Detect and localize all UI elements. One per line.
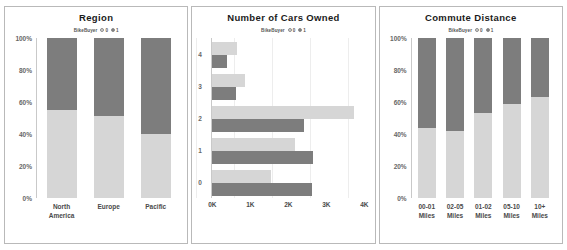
bar-group: 0 bbox=[212, 166, 364, 198]
x-tick-label: 1K bbox=[246, 201, 254, 208]
bar-segment-series-1[interactable] bbox=[141, 38, 171, 134]
legend-label-1: 1 bbox=[116, 28, 119, 33]
bar-segment-series-0[interactable] bbox=[418, 128, 436, 198]
x-axis-labels-region: North AmericaEuropePacific bbox=[38, 202, 179, 220]
y-tick-label: 40% bbox=[394, 131, 407, 138]
bar-series-1[interactable] bbox=[212, 183, 312, 196]
stacked-bar[interactable] bbox=[418, 38, 436, 198]
bar-segment-series-0[interactable] bbox=[474, 113, 492, 198]
panel-cars-owned: Number of Cars Owned BikeBuyer 0 1 43210… bbox=[191, 6, 375, 244]
page-title-commute-distance: Commute Distance bbox=[380, 12, 562, 23]
bar-segment-series-1[interactable] bbox=[446, 38, 464, 131]
y-axis-line-region bbox=[36, 38, 37, 198]
x-axis-label: 02-05 Miles bbox=[441, 202, 469, 220]
x-axis-label: 05-10 Miles bbox=[498, 202, 526, 220]
y-tick-label: 80% bbox=[19, 67, 32, 74]
bar-segment-series-1[interactable] bbox=[474, 38, 492, 113]
bar-segment-series-1[interactable] bbox=[94, 38, 124, 116]
bar-segment-series-0[interactable] bbox=[531, 97, 549, 198]
bar-series-0[interactable] bbox=[212, 138, 295, 151]
charts-dashboard: Region BikeBuyer 0 1 100%80%60%40%20%0% … bbox=[0, 0, 567, 250]
panel-region: Region BikeBuyer 0 1 100%80%60%40%20%0% … bbox=[4, 6, 188, 244]
legend-item-0[interactable]: 0 bbox=[288, 28, 296, 33]
y-axis-label: 2 bbox=[198, 115, 202, 122]
legend-swatch-1-icon bbox=[486, 28, 490, 32]
legend-label-1: 1 bbox=[303, 28, 306, 33]
legend-swatch-0-icon bbox=[288, 28, 292, 32]
legend-item-1[interactable]: 1 bbox=[111, 28, 119, 33]
legend-label-0: 0 bbox=[293, 28, 296, 33]
x-axis-label: Pacific bbox=[136, 202, 176, 220]
x-axis-label: North America bbox=[42, 202, 82, 220]
y-axis-commute-distance: 100%80%60%40%20%0% bbox=[384, 38, 410, 198]
bar-series-0[interactable] bbox=[212, 74, 245, 87]
bar-series-1[interactable] bbox=[212, 119, 304, 132]
stacked-bar[interactable] bbox=[94, 38, 124, 198]
bar-group: 1 bbox=[212, 134, 364, 166]
bar-segment-series-1[interactable] bbox=[418, 38, 436, 128]
stacked-bar[interactable] bbox=[503, 38, 521, 198]
x-tick-label: 2K bbox=[284, 201, 292, 208]
bar-series-0[interactable] bbox=[212, 106, 354, 119]
bar-series-1[interactable] bbox=[212, 55, 227, 68]
bar-segment-series-0[interactable] bbox=[47, 110, 77, 198]
bar-segment-series-1[interactable] bbox=[503, 38, 521, 104]
bar-series-1[interactable] bbox=[212, 87, 236, 100]
y-tick-label: 60% bbox=[19, 99, 32, 106]
x-axis-label: 01-02 Miles bbox=[469, 202, 497, 220]
bar-series-0[interactable] bbox=[212, 170, 271, 183]
y-axis-label: 0 bbox=[198, 179, 202, 186]
y-tick-label: 40% bbox=[19, 131, 32, 138]
bar-segment-series-0[interactable] bbox=[503, 104, 521, 198]
stacked-bar[interactable] bbox=[47, 38, 77, 198]
bar-group: 3 bbox=[212, 70, 364, 102]
bar-segment-series-0[interactable] bbox=[141, 134, 171, 198]
bar-segment-series-1[interactable] bbox=[47, 38, 77, 110]
x-tick-label: 3K bbox=[322, 201, 330, 208]
legend-swatch-0-icon bbox=[100, 28, 104, 32]
y-tick-label: 60% bbox=[394, 99, 407, 106]
bar-segment-series-0[interactable] bbox=[94, 116, 124, 198]
bars-commute-distance bbox=[413, 38, 554, 198]
bar-segment-series-0[interactable] bbox=[446, 131, 464, 198]
legend-item-0[interactable]: 0 bbox=[100, 28, 108, 33]
panel-commute-distance: Commute Distance BikeBuyer 0 1 100%80%60… bbox=[379, 6, 563, 244]
plot-area-cars-owned: 43210 0K1K2K3K4K bbox=[196, 36, 368, 243]
y-tick-label: 20% bbox=[394, 163, 407, 170]
stacked-bar[interactable] bbox=[141, 38, 171, 198]
bar-series-1[interactable] bbox=[212, 151, 312, 164]
y-axis-label: 3 bbox=[198, 83, 202, 90]
bar-segment-series-1[interactable] bbox=[531, 38, 549, 97]
legend-region: BikeBuyer 0 1 bbox=[5, 26, 187, 34]
bars-cars-owned: 43210 bbox=[212, 38, 364, 198]
bar-series-0[interactable] bbox=[212, 42, 236, 55]
legend-swatch-1-icon bbox=[298, 28, 302, 32]
legend-title: BikeBuyer bbox=[448, 28, 472, 33]
legend-title: BikeBuyer bbox=[261, 28, 285, 33]
legend-swatch-1-icon bbox=[111, 28, 115, 32]
y-tick-label: 100% bbox=[15, 35, 32, 42]
y-tick-label: 80% bbox=[394, 67, 407, 74]
y-axis-region: 100%80%60%40%20%0% bbox=[9, 38, 35, 198]
legend-item-1[interactable]: 1 bbox=[486, 28, 494, 33]
stacked-bar[interactable] bbox=[531, 38, 549, 198]
x-axis-labels-cars-owned: 0K1K2K3K4K bbox=[212, 201, 364, 211]
y-axis-label: 4 bbox=[198, 51, 202, 58]
plot-area-region: 100%80%60%40%20%0% North AmericaEuropePa… bbox=[9, 36, 181, 243]
vertical-stacked-chart-commute-distance: 100%80%60%40%20%0% 00-01 Miles02-05 Mile… bbox=[384, 36, 556, 243]
x-axis-label: Europe bbox=[89, 202, 129, 220]
legend-swatch-0-icon bbox=[475, 28, 479, 32]
x-axis-label: 00-01 Miles bbox=[413, 202, 441, 220]
y-axis-line-commute-distance bbox=[411, 38, 412, 198]
stacked-bar[interactable] bbox=[446, 38, 464, 198]
y-tick-label: 100% bbox=[390, 35, 407, 42]
y-tick-label: 0% bbox=[23, 195, 32, 202]
y-tick-label: 0% bbox=[397, 195, 406, 202]
legend-item-1[interactable]: 1 bbox=[298, 28, 306, 33]
stacked-bar[interactable] bbox=[474, 38, 492, 198]
legend-item-0[interactable]: 0 bbox=[475, 28, 483, 33]
plot-area-commute-distance: 100%80%60%40%20%0% 00-01 Miles02-05 Mile… bbox=[384, 36, 556, 243]
page-title-region: Region bbox=[5, 12, 187, 23]
legend-label-0: 0 bbox=[480, 28, 483, 33]
gridline bbox=[196, 38, 197, 198]
